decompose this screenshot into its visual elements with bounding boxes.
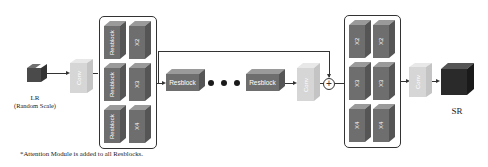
resblock-label: Resblock	[104, 110, 120, 143]
skip-connection-vertical-start	[158, 51, 159, 84]
scale-label: X2	[349, 25, 365, 58]
resblock-x4: Resblock	[104, 105, 126, 143]
body-resblock-first: Resblock	[166, 69, 205, 91]
sr-output-cube	[441, 63, 474, 95]
elementwise-sum-node: +	[323, 78, 335, 90]
head-conv-block: Conv	[70, 59, 93, 93]
skip-connection-horizontal	[158, 51, 330, 52]
scale-label: X3	[349, 67, 365, 100]
upsample-x3-right: X3	[373, 62, 395, 100]
upsample-x4-left: X4	[349, 104, 371, 142]
scale-label: X3	[129, 68, 145, 101]
lr-sublabel: (Random Scale)	[12, 102, 58, 109]
resblock-x2: Resblock	[104, 21, 126, 59]
upsample-x2-left: X2	[349, 20, 371, 58]
lr-label: LR	[30, 94, 40, 102]
upsample-x3-left: X3	[349, 62, 371, 100]
arrow-conv-to-group	[93, 73, 98, 74]
ellipsis-dot	[234, 80, 240, 86]
ellipsis-dot	[221, 80, 227, 86]
scale-label: X4	[129, 110, 145, 143]
lr-input-cube	[27, 64, 47, 82]
scale-label: X4	[349, 109, 365, 142]
body-conv-block: Conv	[297, 63, 320, 101]
upsample-x4: X4	[129, 105, 151, 143]
body-conv-label: Conv	[297, 68, 314, 101]
upsample-x3: X3	[129, 63, 151, 101]
scale-label: X2	[129, 26, 145, 59]
scale-label: X3	[373, 67, 389, 100]
arrow-sum-to-group	[335, 83, 344, 84]
upsample-x2: X2	[129, 21, 151, 59]
upsample-x2-right: X2	[373, 20, 395, 58]
body-resblock-last: Resblock	[246, 69, 285, 91]
resblock-label: Resblock	[246, 74, 279, 91]
ellipsis-dot	[208, 80, 214, 86]
tail-conv-label: Conv	[409, 67, 426, 97]
arrow-lr-to-conv	[47, 73, 68, 74]
footnote: *Attention Module is added to all Resblo…	[20, 150, 143, 157]
scale-label: X4	[373, 109, 389, 142]
upsample-x4-right: X4	[373, 104, 395, 142]
resblock-label: Resblock	[104, 26, 120, 59]
arrowhead	[436, 79, 440, 83]
resblock-label: Resblock	[166, 74, 199, 91]
resblock-label: Resblock	[104, 68, 120, 101]
sr-label: SR	[447, 106, 467, 116]
scale-label: X2	[373, 25, 389, 58]
resblock-x3: Resblock	[104, 63, 126, 101]
tail-conv-block: Conv	[409, 63, 432, 97]
head-conv-label: Conv	[70, 63, 87, 93]
